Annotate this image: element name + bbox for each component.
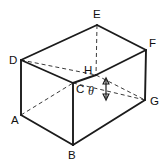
vertex-label-d: D <box>9 54 17 66</box>
edge-c-h <box>73 75 96 83</box>
edge-e-h <box>96 25 97 75</box>
dashed-edge-group <box>21 25 145 115</box>
edge-f-g <box>145 50 146 100</box>
theta-label: θ <box>88 84 94 98</box>
edge-h-g <box>96 75 145 100</box>
cuboid-diagram-canvas: A B C D E F G H θ <box>0 0 165 166</box>
edge-h-f <box>96 50 146 75</box>
vertex-label-g: G <box>150 95 159 107</box>
edge-d-c <box>21 60 73 83</box>
vertex-label-c: C <box>76 83 84 95</box>
geometry-figure: A B C D E F G H θ <box>0 0 165 166</box>
edge-e-f <box>97 25 146 50</box>
vertex-label-h: H <box>84 64 92 76</box>
vertex-label-e: E <box>93 8 101 20</box>
vertex-label-a: A <box>11 114 19 126</box>
vertex-label-f: F <box>149 37 156 49</box>
edge-b-g <box>73 100 145 145</box>
edge-a-c <box>21 83 73 115</box>
edge-d-e <box>21 25 97 60</box>
edge-a-b <box>21 115 73 145</box>
vertex-label-b: B <box>68 149 76 161</box>
theta-angle-marker <box>103 78 109 100</box>
